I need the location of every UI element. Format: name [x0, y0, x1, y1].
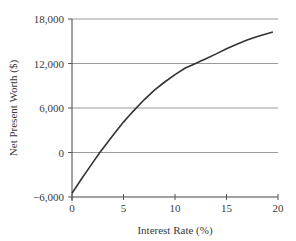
- x-axis-label: Interest Rate (%): [137, 224, 212, 237]
- y-axis-label: Net Present Worth ($): [7, 59, 20, 156]
- y-tick-label: 18,000: [34, 13, 65, 25]
- npw-curve: [72, 32, 273, 193]
- npw-chart: −6,00006,00012,00018,00005101520 Interes…: [0, 0, 296, 241]
- axes: [72, 19, 278, 201]
- y-tick-label: 6,000: [39, 102, 64, 114]
- x-tick-label: 10: [170, 202, 182, 214]
- ticks: −6,00006,00012,00018,00005101520: [33, 13, 284, 214]
- gridlines: [72, 19, 278, 153]
- x-tick-label: 15: [221, 202, 233, 214]
- x-tick-label: 5: [121, 202, 127, 214]
- y-tick-label: 12,000: [34, 58, 65, 70]
- x-tick-label: 20: [273, 202, 285, 214]
- y-tick-label: 0: [59, 147, 65, 159]
- x-tick-label: 0: [69, 202, 75, 214]
- y-tick-label: −6,000: [33, 191, 64, 203]
